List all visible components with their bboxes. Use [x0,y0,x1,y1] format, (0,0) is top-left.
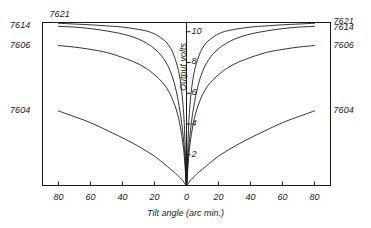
chart-figure: 7621 7614 7606 7604 7621 7614 7606 7604 … [0,0,371,228]
curve-end-label-left-7621: 7621 [50,9,70,19]
curve-end-label-right-7614: 7614 [334,22,354,32]
curve-end-label-left-7606: 7606 [10,40,30,50]
y-tick-label-4: 10 [192,26,202,36]
y-axis-title: Output volts [178,42,188,90]
curve-end-label-right-7606: 7606 [334,40,354,50]
x-tick-label-6: 40 [243,192,259,202]
x-tick-label-1: 60 [83,192,99,202]
x-tick-label-0: 80 [51,192,67,202]
y-tick-label-2: 6 [192,87,197,97]
x-tick-label-3: 20 [147,192,163,202]
curve-end-label-left-7614: 7614 [10,20,30,30]
curve-end-label-right-7604: 7604 [334,105,354,115]
curve-end-label-left-7604: 7604 [10,105,30,115]
x-tick-label-8: 80 [307,192,323,202]
y-tick-label-3: 8 [192,56,197,66]
x-tick-label-7: 60 [275,192,291,202]
y-tick-label-0: 2 [192,149,197,159]
x-tick-label-4: 0 [179,192,195,202]
x-tick-label-2: 40 [115,192,131,202]
y-tick-label-1: 4 [192,118,197,128]
x-tick-label-5: 20 [211,192,227,202]
x-axis-title: Tilt angle (arc min.) [0,208,371,218]
